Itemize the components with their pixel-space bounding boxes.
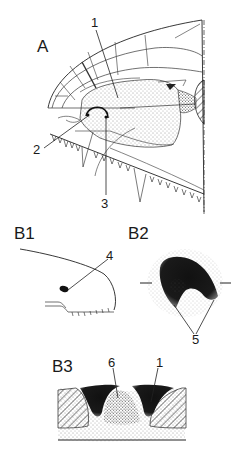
panel-b1-drawing [20,249,116,316]
figure-canvas [0,0,247,454]
callout-6: 6 [108,355,115,370]
callout-1: 1 [91,15,98,30]
callout-4: 4 [106,248,113,263]
gland-spot [59,285,69,293]
panel-label-b3: B3 [52,357,73,377]
panel-label-a: A [37,37,48,57]
panel-label-b1: B1 [14,224,35,244]
panel-b2-drawing [140,249,231,334]
panel-a-drawing [44,20,204,214]
panel-b3-drawing [58,368,186,441]
callout-3: 3 [101,196,108,211]
callout-2: 2 [33,142,40,157]
leader-4 [68,259,108,290]
gland-body [80,79,181,147]
callout-b3-1: 1 [156,355,163,370]
callout-5: 5 [192,332,199,347]
panel-label-b2: B2 [128,224,149,244]
leader-2 [44,116,88,148]
